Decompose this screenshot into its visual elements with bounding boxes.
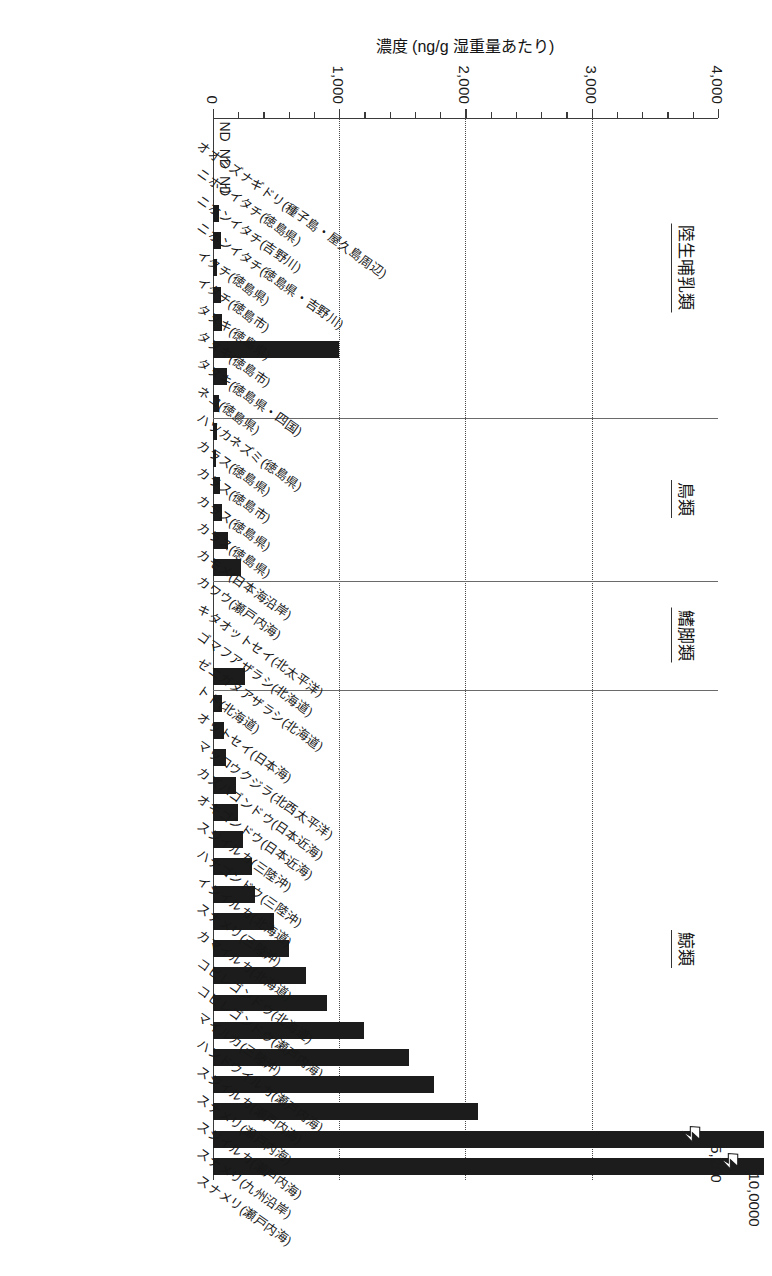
nd-label-2: ND	[217, 176, 233, 196]
plot-area: 01,0002,0003,0004,000 陸生哺乳類鳥類鰭脚類鯨類 10,00…	[213, 118, 718, 1180]
value-tick-label-2000: 2,000	[457, 65, 474, 104]
tick-4000	[718, 109, 719, 118]
nd-label-1: ND	[217, 149, 233, 169]
axis-break-label-38: 10,0000	[746, 1172, 763, 1226]
bar-chart-figure: 濃度 (ng/g 湿重量あたり) 01,0002,0003,0004,000 陸…	[0, 0, 772, 1276]
tick-2000	[466, 109, 467, 118]
axis-break-label-37: 5,200	[708, 1145, 725, 1183]
tick-1000	[339, 109, 340, 118]
nd-label-0: ND	[217, 121, 233, 141]
bar-38	[213, 1158, 764, 1175]
rotated-figure-wrapper: 濃度 (ng/g 湿重量あたり) 01,0002,0003,0004,000 陸…	[0, 0, 772, 1276]
value-tick-label-0: 0	[204, 95, 221, 104]
value-tick-label-4000: 4,000	[709, 65, 726, 104]
group-title-1: 鳥類	[671, 480, 700, 518]
value-tick-label-3000: 3,000	[583, 65, 600, 104]
axis-break-marker-37	[678, 1125, 704, 1152]
value-axis-title: 濃度 (ng/g 湿重量あたり)	[376, 33, 555, 57]
group-title-0: 陸生哺乳類	[671, 223, 700, 312]
value-axis-title-wrap: 濃度 (ng/g 湿重量あたり)	[213, 22, 718, 62]
group-title-3: 鯨類	[671, 930, 700, 968]
value-tick-label-1000: 1,000	[330, 65, 347, 104]
group-title-2: 鰭脚類	[671, 608, 700, 663]
group-separator-1	[213, 581, 718, 582]
tick-3000	[592, 109, 593, 118]
tick-0	[213, 109, 214, 118]
